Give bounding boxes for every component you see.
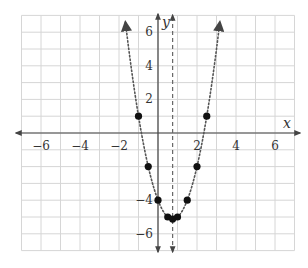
data-point xyxy=(174,213,181,220)
axes xyxy=(16,14,300,252)
x-axis-label: x xyxy=(283,115,291,131)
y-tick-label: 4 xyxy=(145,59,153,73)
parabola-curve xyxy=(125,22,219,219)
data-point xyxy=(135,113,142,120)
y-axis-label: y xyxy=(161,14,171,30)
x-tick-label: 4 xyxy=(232,139,240,153)
data-point xyxy=(203,113,210,120)
y-tick-label: 6 xyxy=(145,25,153,39)
y-tick-label: −6 xyxy=(135,227,153,241)
data-point xyxy=(154,197,161,204)
y-tick-label: 2 xyxy=(145,92,153,106)
data-point xyxy=(184,197,191,204)
x-tick-label: −6 xyxy=(32,139,50,153)
data-point xyxy=(145,163,152,170)
x-tick-label: −4 xyxy=(71,139,89,153)
x-tick-label: 6 xyxy=(271,139,279,153)
y-tick-label: −4 xyxy=(135,193,153,207)
parabola-chart: −6−4−2246642−4−6 x y xyxy=(0,0,308,268)
x-tick-label: −2 xyxy=(110,139,128,153)
data-point xyxy=(193,163,200,170)
